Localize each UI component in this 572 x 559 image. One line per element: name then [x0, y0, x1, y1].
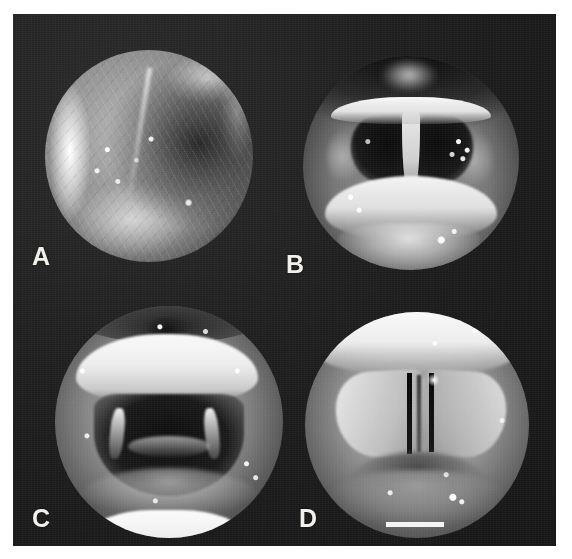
panel-d-photo [305, 312, 529, 538]
panel-a-image [45, 50, 253, 262]
panel-label-d: D [299, 506, 318, 531]
panel-b-photo [303, 56, 519, 270]
panel-c-photo [55, 306, 283, 538]
photographic-plate: A B C D [13, 14, 556, 546]
panel-b-image [303, 56, 519, 270]
panel-d-specular-highlights [305, 312, 529, 538]
panel-label-b: B [286, 252, 305, 277]
panel-a-photo [45, 50, 253, 262]
panel-d-image [305, 312, 529, 538]
panel-b-specular-highlights [303, 56, 519, 270]
panel-c-specular-highlights [55, 306, 283, 538]
panel-a-highlights [45, 50, 253, 262]
figure-plate: A B C D [0, 0, 572, 559]
panel-label-a: A [32, 244, 51, 269]
panel-label-c: C [32, 506, 51, 531]
panel-c-image [55, 306, 283, 538]
